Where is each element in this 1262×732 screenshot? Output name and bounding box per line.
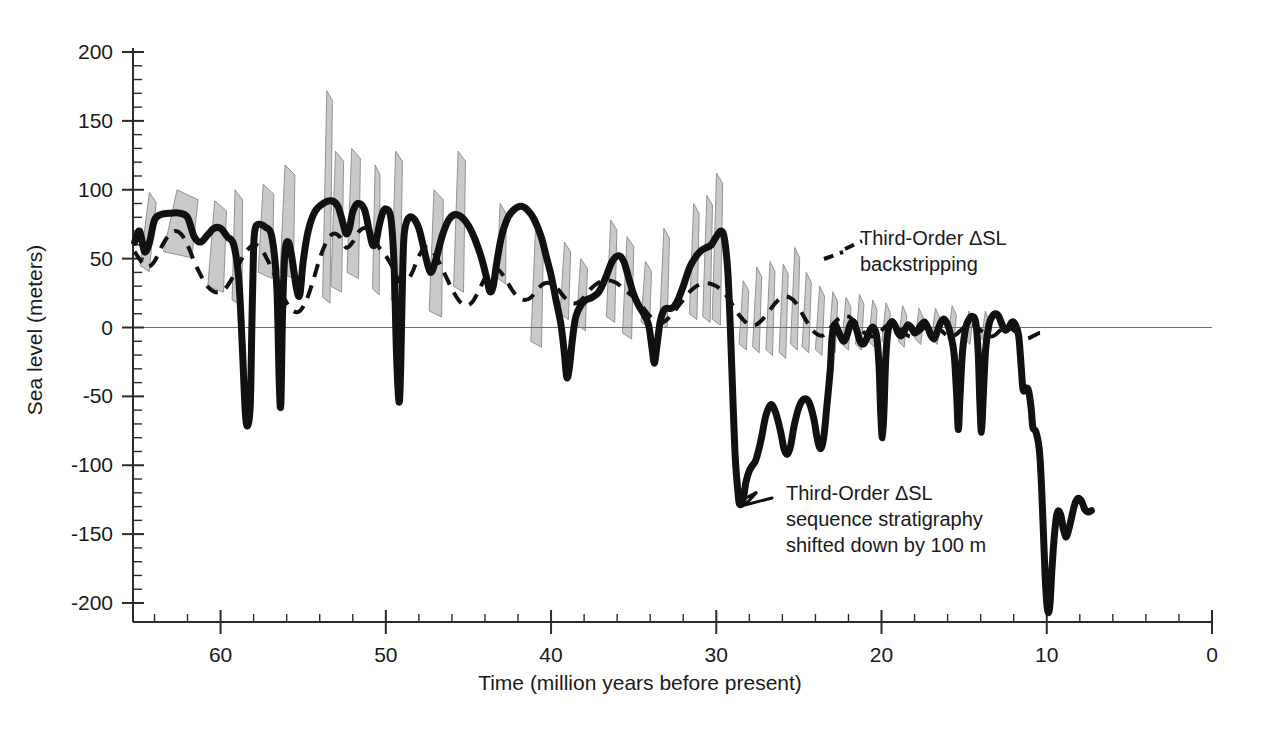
annotation-backstripping-line-2: backstripping — [860, 253, 978, 275]
y-tick-label: 0 — [101, 316, 113, 339]
uncertainty-band — [779, 264, 788, 358]
uncertainty-band — [323, 91, 333, 304]
y-axis-title: Sea level (meters) — [23, 245, 46, 415]
x-tick-label: 20 — [870, 643, 893, 666]
annotation-sequence-line-1: Third-Order ΔSL — [786, 482, 933, 504]
x-axis-title: Time (million years before present) — [478, 671, 802, 694]
y-tick-label: -50 — [83, 384, 113, 407]
annotation-sequence-line-2: sequence stratigraphy — [786, 508, 983, 530]
x-tick-label: 30 — [705, 643, 728, 666]
chart-svg: 200150100500-50-100-150-2006050403020100… — [0, 0, 1262, 732]
annotation-backstripping-line-1: Third-Order ΔSL — [860, 227, 1007, 249]
x-tick-label: 10 — [1035, 643, 1058, 666]
y-tick-label: -200 — [71, 591, 113, 614]
uncertainty-band — [712, 173, 723, 325]
x-tick-label: 50 — [374, 643, 397, 666]
dashed-sample-icon — [824, 252, 843, 259]
y-tick-label: 100 — [78, 178, 113, 201]
uncertainty-band — [703, 195, 713, 322]
annotation-sequence-line-3: shifted down by 100 m — [786, 534, 986, 556]
uncertainty-band — [753, 267, 762, 353]
uncertainty-band — [815, 286, 824, 355]
x-tick-label: 0 — [1206, 643, 1218, 666]
uncertainty-band — [208, 201, 227, 292]
y-tick-label: -150 — [71, 522, 113, 545]
annotation-sequence-stratigraphy: Third-Order ΔSL sequence stratigraphy sh… — [744, 482, 986, 556]
leader-squiggle-icon — [744, 492, 772, 505]
y-tick-label: -100 — [71, 453, 113, 476]
uncertainty-band — [560, 242, 571, 320]
x-tick-label: 40 — [539, 643, 562, 666]
annotation-backstripping: Third-Order ΔSL backstripping — [824, 227, 1007, 275]
y-tick-label: 200 — [78, 40, 113, 63]
sea-level-chart-figure: 200150100500-50-100-150-2006050403020100… — [0, 0, 1262, 732]
y-tick-label: 50 — [90, 247, 113, 270]
y-tick-label: 150 — [78, 109, 113, 132]
x-tick-label: 60 — [209, 643, 232, 666]
